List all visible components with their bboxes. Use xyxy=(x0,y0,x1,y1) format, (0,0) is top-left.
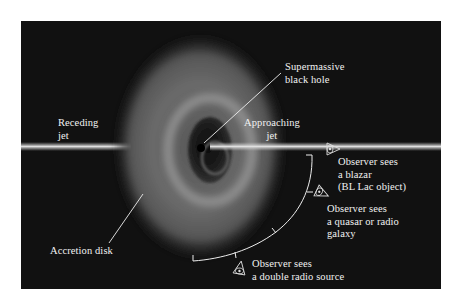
approaching-jet xyxy=(210,142,441,151)
eye-icon-quasar xyxy=(314,185,331,201)
black-hole xyxy=(197,144,205,152)
black-hole-label: Supermassive black hole xyxy=(285,61,345,86)
receding-jet-label: Receding jet xyxy=(58,117,98,142)
approaching-jet-label: Approaching jet xyxy=(244,117,300,142)
observer-blazar-label: Observer sees a blazar (BL Lac object) xyxy=(338,156,406,194)
observer-double-radio-label: Observer sees a double radio source xyxy=(252,258,344,283)
agn-diagram: Supermassive black hole Receding jet App… xyxy=(21,21,441,289)
observer-quasar-label: Observer sees a quasar or radio galaxy xyxy=(327,203,399,241)
eye-icon-double-radio xyxy=(233,260,247,275)
accretion-disk-label: Accretion disk xyxy=(50,245,113,258)
